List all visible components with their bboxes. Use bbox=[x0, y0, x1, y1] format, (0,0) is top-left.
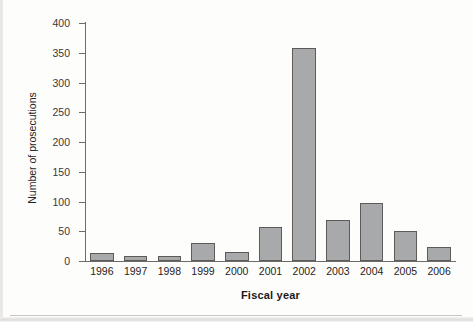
y-tick-label: 400 bbox=[52, 18, 70, 29]
bar bbox=[124, 256, 148, 261]
bar bbox=[158, 256, 182, 261]
x-tick-label: 1999 bbox=[191, 266, 214, 277]
bar bbox=[326, 220, 350, 261]
bar bbox=[427, 247, 451, 261]
bar bbox=[259, 227, 283, 262]
bar bbox=[292, 48, 316, 261]
y-tick-label: 0 bbox=[64, 256, 70, 267]
y-tick-label: 150 bbox=[52, 167, 70, 178]
bar bbox=[90, 253, 114, 261]
bars-group bbox=[85, 23, 456, 261]
x-axis-tick-labels: 1996199719981999200020012002200320042005… bbox=[85, 266, 456, 282]
x-axis-title: Fiscal year bbox=[85, 289, 456, 301]
x-tick-label: 2005 bbox=[394, 266, 417, 277]
x-tick-label: 1998 bbox=[158, 266, 181, 277]
x-tick-label: 2006 bbox=[427, 266, 450, 277]
bar bbox=[394, 231, 418, 261]
x-tick-label: 2004 bbox=[360, 266, 383, 277]
x-tick-label: 2002 bbox=[293, 266, 316, 277]
bar bbox=[360, 203, 384, 261]
y-tick-label: 250 bbox=[52, 107, 70, 118]
bar bbox=[225, 252, 249, 261]
y-tick-label: 100 bbox=[52, 196, 70, 207]
x-tick-label: 1997 bbox=[124, 266, 147, 277]
y-tick-label: 50 bbox=[58, 226, 70, 237]
y-tick-mark: 0 bbox=[79, 261, 85, 262]
y-axis-title: Number of prosecutions bbox=[26, 58, 38, 238]
bar bbox=[191, 243, 215, 261]
y-tick-label: 300 bbox=[52, 77, 70, 88]
y-tick-label: 200 bbox=[52, 137, 70, 148]
x-tick-label: 2003 bbox=[326, 266, 349, 277]
y-tick-label: 350 bbox=[52, 48, 70, 59]
bar-chart: 050100150200250300350400 199619971998199… bbox=[0, 0, 473, 322]
x-axis-line bbox=[85, 261, 456, 262]
x-tick-label: 2000 bbox=[225, 266, 248, 277]
x-tick-label: 1996 bbox=[90, 266, 113, 277]
x-tick-label: 2001 bbox=[259, 266, 282, 277]
